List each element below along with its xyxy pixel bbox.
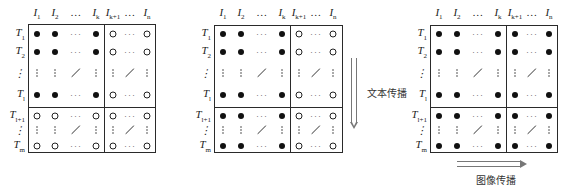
filled-dot-icon (93, 49, 99, 55)
filled-dot-icon (546, 92, 552, 98)
arrow-down-icon (350, 122, 358, 129)
empty-dot-icon (330, 31, 337, 38)
image-propagation-arrow (457, 161, 521, 167)
vertical-ellipsis-icon (438, 69, 440, 78)
empty-dot-icon (144, 49, 151, 56)
row-label: Tl+1 (9, 108, 25, 123)
empty-dot-icon (330, 92, 337, 99)
vertical-ellipsis-icon (298, 126, 300, 135)
filled-dot-icon (454, 31, 460, 37)
filled-dot-icon (220, 143, 226, 149)
empty-dot-icon (144, 113, 151, 120)
filled-dot-icon (495, 31, 501, 37)
filled-dot-icon (546, 31, 552, 37)
filled-dot-icon (546, 113, 552, 119)
diagonal-ellipsis-icon (312, 69, 321, 78)
filled-dot-icon (454, 49, 460, 55)
empty-dot-icon (110, 113, 117, 120)
column-label: Ik+1 (106, 6, 121, 21)
empty-dot-icon (93, 143, 100, 150)
column-label: In (143, 6, 150, 21)
filled-dot-icon (454, 143, 460, 149)
filled-dot-icon (238, 92, 244, 98)
filled-dot-icon (279, 92, 285, 98)
filled-dot-icon (52, 31, 58, 37)
image-propagation-label: 图像传播 (476, 172, 516, 187)
horizontal-ellipsis-icon: ··· (70, 29, 82, 39)
row-label: T2 (201, 44, 211, 59)
horizontal-ellipsis-icon: ··· (70, 47, 82, 57)
arrow-right-icon (520, 160, 527, 168)
row-label: T1 (15, 26, 25, 41)
filled-dot-icon (220, 49, 226, 55)
empty-dot-icon (144, 92, 151, 99)
empty-dot-icon (296, 31, 303, 38)
empty-dot-icon (93, 113, 100, 120)
filled-dot-icon (279, 31, 285, 37)
vertical-ellipsis-icon (240, 69, 242, 78)
filled-dot-icon (495, 113, 501, 119)
diagonal-ellipsis-icon (72, 69, 81, 78)
horizontal-ellipsis-icon: ··· (70, 90, 82, 100)
filled-dot-icon (512, 113, 518, 119)
filled-dot-icon (436, 113, 442, 119)
matrix-frame (430, 25, 558, 153)
column-label: I1 (33, 6, 40, 21)
horizontal-ellipsis-icon: ··· (256, 111, 268, 121)
filled-dot-icon (436, 49, 442, 55)
horizontal-ellipsis-icon: ··· (472, 47, 484, 57)
horizontal-ellipsis-icon: ··· (124, 90, 136, 100)
horizontal-ellipsis-icon: ··· (310, 29, 322, 39)
vertical-ellipsis-icon (514, 69, 516, 78)
vertical-ellipsis-icon (36, 69, 38, 78)
vertical-ellipsis-icon (146, 126, 148, 135)
empty-dot-icon (34, 113, 41, 120)
diagonal-ellipsis-icon (474, 69, 483, 78)
horizontal-ellipsis-icon: ··· (526, 47, 538, 57)
vertical-ellipsis-icon (456, 69, 458, 78)
horizontal-ellipsis-icon: ··· (70, 141, 82, 151)
filled-dot-icon (52, 92, 58, 98)
row-label: Tm (199, 138, 211, 153)
column-label: Ik (92, 6, 99, 21)
row-label: Tm (415, 138, 427, 153)
diagonal-ellipsis-icon (474, 126, 483, 135)
row-label: ⋮ (200, 124, 211, 137)
filled-dot-icon (495, 143, 501, 149)
horizontal-ellipsis-icon: ··· (124, 111, 136, 121)
vertical-ellipsis-icon (222, 126, 224, 135)
filled-dot-icon (238, 143, 244, 149)
column-label: … (527, 6, 537, 18)
empty-dot-icon (52, 143, 59, 150)
row-label: T1 (417, 26, 427, 41)
column-label: … (71, 6, 81, 18)
horizontal-ellipsis-icon: ··· (124, 47, 136, 57)
filled-dot-icon (220, 113, 226, 119)
filled-dot-icon (512, 143, 518, 149)
filled-dot-icon (279, 49, 285, 55)
filled-dot-icon (279, 113, 285, 119)
vertical-ellipsis-icon (298, 69, 300, 78)
filled-dot-icon (93, 31, 99, 37)
horizontal-ellipsis-icon: ··· (472, 90, 484, 100)
column-label: I1 (435, 6, 442, 21)
filled-dot-icon (238, 49, 244, 55)
row-label: T1 (201, 26, 211, 41)
diagonal-ellipsis-icon (258, 126, 267, 135)
empty-dot-icon (110, 31, 117, 38)
column-label: … (311, 6, 321, 18)
row-label: ⋮ (416, 67, 427, 80)
vertical-ellipsis-icon (222, 69, 224, 78)
filled-dot-icon (546, 143, 552, 149)
empty-dot-icon (296, 113, 303, 120)
empty-dot-icon (110, 92, 117, 99)
horizontal-ellipsis-icon: ··· (526, 90, 538, 100)
empty-dot-icon (330, 143, 337, 150)
vertical-ellipsis-icon (332, 69, 334, 78)
vertical-ellipsis-icon (54, 69, 56, 78)
filled-dot-icon (454, 113, 460, 119)
filled-dot-icon (220, 31, 226, 37)
diagonal-ellipsis-icon (258, 69, 267, 78)
diagonal-ellipsis-icon (312, 126, 321, 135)
column-divider (506, 25, 507, 153)
